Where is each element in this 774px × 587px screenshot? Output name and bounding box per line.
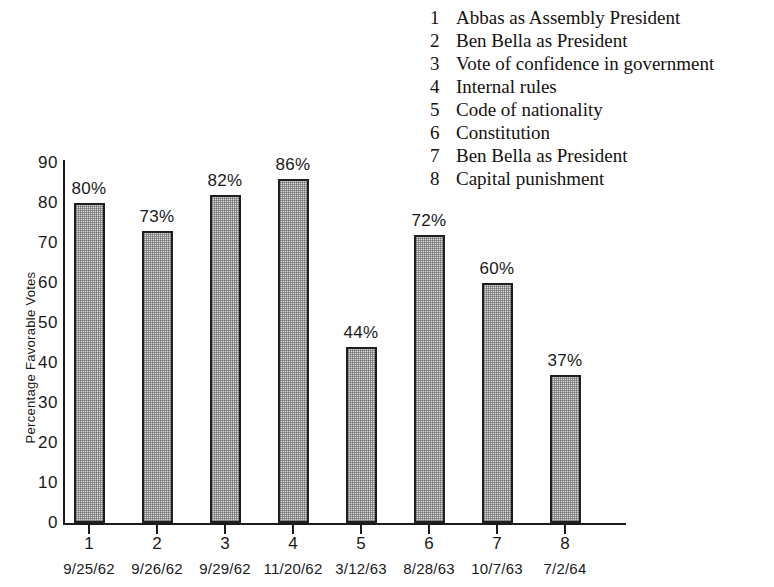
bar xyxy=(482,283,513,523)
x-tick-number: 8 xyxy=(545,534,585,554)
bar-value-label: 60% xyxy=(467,259,527,279)
legend-item-number: 7 xyxy=(430,144,456,167)
y-axis-title: Percentage Favorable Votes xyxy=(23,228,38,488)
legend: 1Abbas as Assembly President2Ben Bella a… xyxy=(430,6,770,190)
bar-value-label: 72% xyxy=(399,211,459,231)
y-axis-line xyxy=(63,160,65,525)
legend-item-label: Ben Bella as President xyxy=(456,29,628,52)
x-tick-number: 4 xyxy=(273,534,313,554)
bar-value-label: 82% xyxy=(195,171,255,191)
y-tick-label: 80 xyxy=(28,193,58,213)
legend-item-label: Code of nationality xyxy=(456,98,603,121)
legend-item: 4Internal rules xyxy=(430,75,770,98)
legend-item-number: 1 xyxy=(430,6,456,29)
x-tick-mark xyxy=(224,525,226,534)
x-tick-mark xyxy=(428,525,430,534)
legend-item-label: Vote of confidence in government xyxy=(456,52,714,75)
x-tick-mark xyxy=(88,525,90,534)
legend-item-number: 2 xyxy=(430,29,456,52)
legend-item-label: Capital punishment xyxy=(456,167,604,190)
legend-item: 6Constitution xyxy=(430,121,770,144)
x-tick-mark xyxy=(360,525,362,534)
bar-value-label: 80% xyxy=(59,179,119,199)
x-tick-date: 7/2/64 xyxy=(525,560,605,577)
legend-item: 8Capital punishment xyxy=(430,167,770,190)
legend-item: 3Vote of confidence in government xyxy=(430,52,770,75)
legend-item-label: Abbas as Assembly President xyxy=(456,6,680,29)
legend-item: 7Ben Bella as President xyxy=(430,144,770,167)
legend-item-number: 3 xyxy=(430,52,456,75)
bar-value-label: 37% xyxy=(535,351,595,371)
legend-item-number: 4 xyxy=(430,75,456,98)
legend-item-label: Ben Bella as President xyxy=(456,144,628,167)
legend-item-label: Constitution xyxy=(456,121,550,144)
bar xyxy=(74,203,105,523)
bar xyxy=(210,195,241,523)
bar xyxy=(550,375,581,523)
legend-item: 2Ben Bella as President xyxy=(430,29,770,52)
bar xyxy=(414,235,445,523)
x-tick-mark xyxy=(564,525,566,534)
bar xyxy=(278,179,309,523)
x-tick-number: 3 xyxy=(205,534,245,554)
bar-value-label: 73% xyxy=(127,207,187,227)
bar xyxy=(142,231,173,523)
legend-item-number: 8 xyxy=(430,167,456,190)
legend-item-number: 6 xyxy=(430,121,456,144)
legend-item-label: Internal rules xyxy=(456,75,557,98)
bar-value-label: 44% xyxy=(331,323,391,343)
bar xyxy=(346,347,377,523)
y-tick-label: 90 xyxy=(28,153,58,173)
x-tick-mark xyxy=(496,525,498,534)
x-tick-number: 6 xyxy=(409,534,449,554)
y-tick-label: 0 xyxy=(28,513,58,533)
legend-item-number: 5 xyxy=(430,98,456,121)
x-tick-mark xyxy=(156,525,158,534)
bar-value-label: 86% xyxy=(263,155,323,175)
x-tick-number: 2 xyxy=(137,534,177,554)
x-tick-number: 1 xyxy=(69,534,109,554)
x-axis-line xyxy=(63,523,626,525)
x-tick-mark xyxy=(292,525,294,534)
x-tick-number: 7 xyxy=(477,534,517,554)
legend-item: 1Abbas as Assembly President xyxy=(430,6,770,29)
legend-item: 5Code of nationality xyxy=(430,98,770,121)
x-tick-number: 5 xyxy=(341,534,381,554)
